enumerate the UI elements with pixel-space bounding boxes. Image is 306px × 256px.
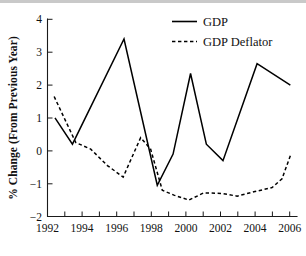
y-tick-label-neg2: −2 (30, 211, 42, 223)
series-line-gdp-deflator (54, 97, 290, 201)
x-tick-label-2000: 2000 (174, 222, 197, 234)
top-rule-divider (0, 0, 306, 3)
chart-figure: % Change (From Previous Year) 4 3 2 1 0 … (0, 0, 306, 256)
y-tick-label-2: 2 (36, 79, 42, 91)
x-axis-labels: 1992 1994 1996 1998 2000 2002 2004 2006 (36, 222, 301, 234)
x-tick-label-1998: 1998 (140, 222, 163, 234)
legend-label-gdp-deflator: GDP Deflator (203, 35, 273, 49)
y-tick-label-3: 3 (36, 46, 42, 58)
legend-entry-gdp-deflator: GDP Deflator (172, 35, 273, 49)
y-tick-label-neg1: −1 (30, 178, 42, 190)
x-axis-ticks (48, 212, 290, 217)
legend-label-gdp: GDP (203, 15, 228, 29)
legend-entry-gdp: GDP (172, 15, 228, 29)
y-axis-title-text: % Change (From Previous Year) (7, 36, 20, 200)
x-tick-label-2004: 2004 (244, 222, 267, 234)
x-tick-label-1992: 1992 (36, 222, 59, 234)
chart-legend: GDP GDP Deflator (172, 15, 273, 49)
x-tick-label-2006: 2006 (278, 222, 301, 234)
x-tick-label-2002: 2002 (209, 222, 232, 234)
x-tick-label-1996: 1996 (105, 222, 128, 234)
x-tick-label-1994: 1994 (71, 222, 94, 234)
y-tick-label-1: 1 (36, 112, 42, 124)
y-axis-ticks: 4 3 2 1 0 −1 −2 (30, 13, 53, 222)
y-tick-label-0: 0 (36, 145, 42, 157)
y-tick-label-4: 4 (36, 13, 42, 25)
series-line-gdp (55, 39, 290, 185)
y-axis-title: % Change (From Previous Year) (7, 36, 20, 200)
line-chart-canvas: % Change (From Previous Year) 4 3 2 1 0 … (0, 0, 306, 256)
